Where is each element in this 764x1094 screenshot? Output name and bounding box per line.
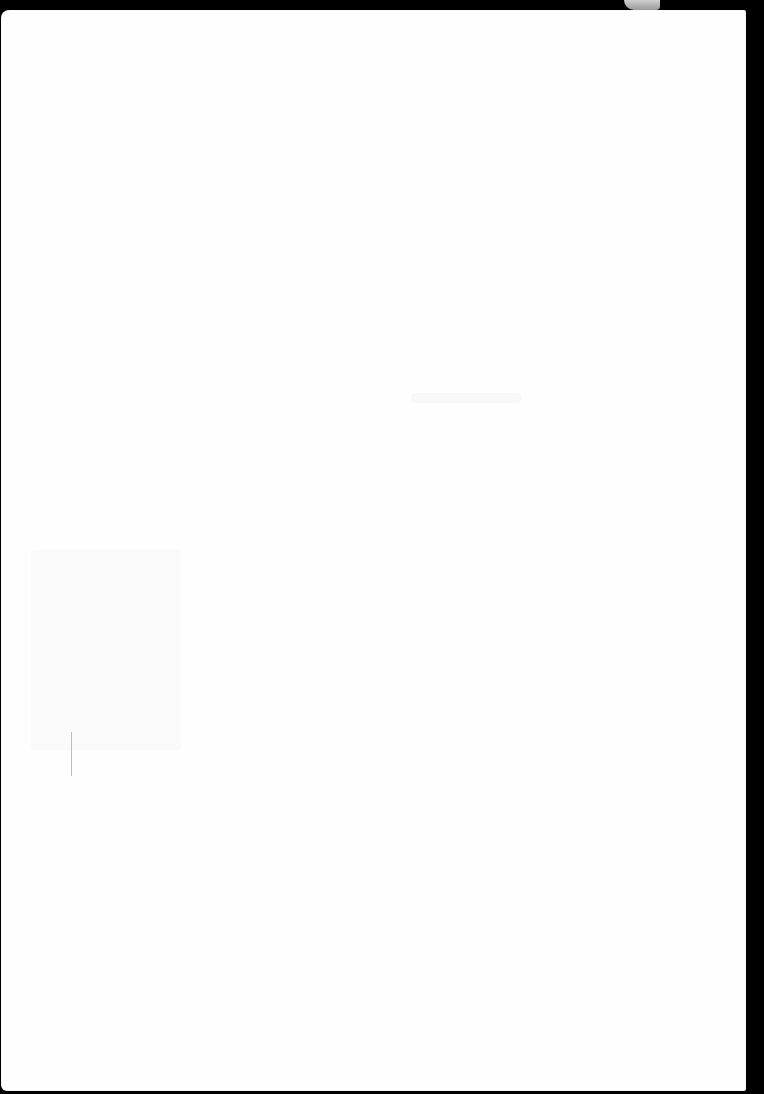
bleed-through-mark	[31, 550, 181, 750]
bleed-through-mark	[411, 393, 521, 403]
scanner-corner-artifact	[624, 0, 660, 10]
scanner-background-edge	[746, 0, 764, 1094]
pencil-line-mark	[71, 732, 72, 776]
paper-sheet	[1, 10, 746, 1091]
